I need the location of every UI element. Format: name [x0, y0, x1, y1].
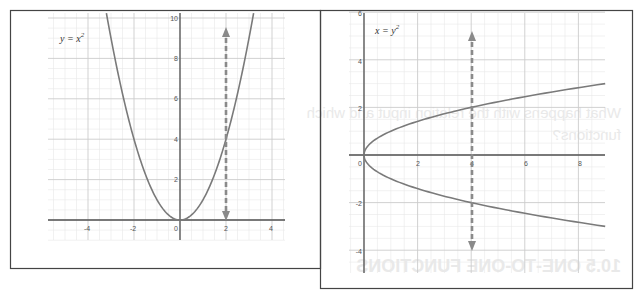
right-vertical-line-test-arrow — [468, 31, 476, 251]
svg-text:0: 0 — [174, 225, 178, 232]
svg-text:4: 4 — [174, 136, 178, 143]
svg-text:2: 2 — [416, 160, 420, 167]
right-x-tick-labels: 0 2 4 6 8 — [358, 160, 582, 167]
svg-text:8: 8 — [174, 55, 178, 62]
svg-text:10: 10 — [170, 15, 178, 22]
arrow-up-icon — [222, 27, 230, 37]
left-major-grid — [48, 13, 285, 240]
left-graph-panel: -4 -2 0 2 4 2 4 6 8 10 y = x2 — [11, 11, 321, 269]
bleed-heading: 10.5 ONE-TO-ONE FUNCTIONS — [356, 256, 621, 276]
left-equation-label: y = x2 — [59, 31, 85, 44]
svg-text:-4: -4 — [84, 225, 90, 232]
bleed-line-2: functions? — [553, 126, 621, 143]
right-graph-panel: 0 2 4 6 8 6 4 2 -2 -4 x = y2 — [321, 10, 633, 289]
bleed-line-1: What happens with the relation input and… — [307, 104, 621, 121]
svg-text:-4: -4 — [356, 248, 362, 255]
svg-text:2: 2 — [174, 176, 178, 183]
figure: What happens with the relation input and… — [0, 0, 641, 295]
svg-text:2: 2 — [224, 225, 228, 232]
right-minor-grid — [349, 13, 605, 273]
arrow-down-icon — [468, 241, 476, 251]
right-equation-label: x = y2 — [374, 23, 400, 36]
right-y-tick-labels: 6 4 2 -2 -4 — [356, 10, 362, 255]
svg-text:0: 0 — [358, 160, 362, 167]
svg-text:2: 2 — [358, 105, 362, 112]
right-panel-frame — [321, 11, 633, 289]
svg-text:-2: -2 — [130, 225, 136, 232]
left-minor-grid — [48, 13, 285, 240]
svg-text:4: 4 — [269, 225, 273, 232]
svg-text:6: 6 — [524, 160, 528, 167]
svg-text:-2: -2 — [356, 200, 362, 207]
svg-text:6: 6 — [174, 95, 178, 102]
svg-text:4: 4 — [358, 58, 362, 65]
left-x-tick-labels: -4 -2 0 2 4 — [84, 225, 273, 232]
svg-text:8: 8 — [578, 160, 582, 167]
